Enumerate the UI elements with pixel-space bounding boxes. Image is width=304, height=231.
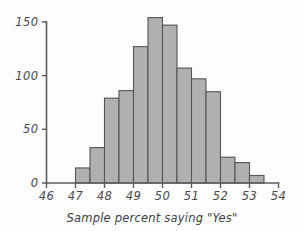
histogram-chart: 050100150 464748495051525354 Sample perc… <box>0 0 304 231</box>
histogram-bar <box>76 168 91 183</box>
histogram-bar <box>163 25 178 183</box>
y-axis-ticks: 050100150 <box>15 15 46 190</box>
chart-canvas: 050100150 464748495051525354 Sample perc… <box>0 0 304 231</box>
y-tick-label: 150 <box>15 15 38 29</box>
histogram-bar <box>119 91 134 183</box>
x-tick-label: 51 <box>184 189 199 203</box>
y-tick-label: 50 <box>23 122 38 136</box>
x-axis-title: Sample percent saying "Yes" <box>67 211 238 225</box>
x-tick-label: 46 <box>39 189 54 203</box>
histogram-bar <box>177 68 192 183</box>
y-tick-label: 0 <box>31 176 39 190</box>
histogram-bar <box>192 79 207 183</box>
histogram-bar <box>148 18 163 183</box>
x-axis-ticks: 464748495051525354 <box>39 183 286 203</box>
y-tick-label: 100 <box>15 69 38 83</box>
bars-group <box>76 18 265 183</box>
x-tick-label: 52 <box>213 189 228 203</box>
x-tick-label: 49 <box>126 189 141 203</box>
histogram-bar <box>206 92 221 183</box>
x-tick-label: 47 <box>68 189 84 203</box>
histogram-bar <box>221 157 236 183</box>
x-tick-label: 53 <box>242 189 257 203</box>
histogram-bar <box>90 148 105 183</box>
x-tick-label: 48 <box>97 189 112 203</box>
histogram-bar <box>134 47 149 183</box>
x-tick-label: 54 <box>271 189 286 203</box>
histogram-bar <box>250 175 265 183</box>
histogram-bar <box>235 163 250 183</box>
histogram-bar <box>105 98 120 183</box>
x-tick-label: 50 <box>155 189 170 203</box>
